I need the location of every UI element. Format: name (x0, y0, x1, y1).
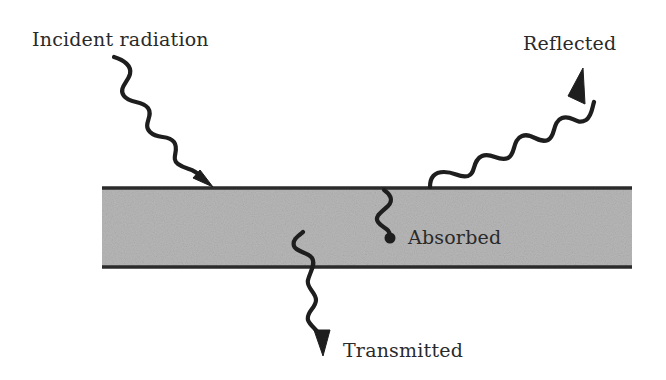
material-slab (102, 188, 632, 267)
reflected-wave (430, 68, 594, 187)
absorbed-dot-icon (385, 233, 396, 244)
reflected-arrowhead-icon (568, 68, 585, 104)
slab-body (102, 188, 632, 266)
transmitted-label: Transmitted (343, 339, 463, 361)
reflected-label: Reflected (523, 32, 616, 54)
radiation-interaction-diagram (0, 0, 666, 380)
absorbed-label: Absorbed (408, 226, 501, 248)
incident-wave (114, 57, 213, 187)
incident-radiation-label: Incident radiation (32, 28, 209, 50)
transmitted-arrowhead-icon (314, 330, 330, 356)
